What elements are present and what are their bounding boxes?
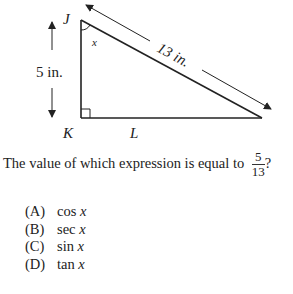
- choice-func: cos: [57, 203, 76, 221]
- choice-func: tan: [57, 256, 75, 274]
- choice-letter: (C): [25, 238, 57, 256]
- fraction-denominator: 13: [252, 165, 265, 179]
- question-text: The value of which expression is equal t…: [3, 155, 244, 171]
- choice-letter: (D): [25, 256, 57, 274]
- choice-letter: (A): [25, 203, 57, 221]
- angle-arc: [81, 25, 90, 30]
- choice-b[interactable]: (B) sec x: [25, 221, 86, 239]
- choice-a[interactable]: (A) cos x: [25, 203, 86, 221]
- choice-func: sin: [57, 238, 74, 256]
- right-triangle: [81, 20, 262, 118]
- choice-var: x: [79, 221, 85, 239]
- side-jk-label: 5 in.: [36, 64, 63, 80]
- fraction: 5 13: [252, 150, 265, 179]
- vertex-label-k: K: [62, 125, 74, 141]
- choice-var: x: [80, 203, 86, 221]
- vertex-label-l: L: [129, 125, 138, 141]
- choice-var: x: [78, 256, 84, 274]
- angle-label: x: [91, 36, 97, 48]
- hypotenuse-label: 13 in.: [155, 40, 193, 70]
- fraction-numerator: 5: [252, 150, 265, 165]
- answer-choices: (A) cos x (B) sec x (C) sin x (D) tan x: [25, 203, 86, 273]
- choice-func: sec: [57, 221, 76, 239]
- choice-var: x: [78, 238, 84, 256]
- right-angle-marker: [81, 109, 90, 118]
- question-stem: The value of which expression is equal t…: [3, 150, 271, 179]
- triangle-figure: J K L x 5 in. 13 in.: [0, 0, 293, 145]
- choice-d[interactable]: (D) tan x: [25, 256, 86, 274]
- question-mark: ?: [265, 155, 271, 171]
- vertex-label-j: J: [63, 11, 71, 27]
- choice-letter: (B): [25, 221, 57, 239]
- choice-c[interactable]: (C) sin x: [25, 238, 86, 256]
